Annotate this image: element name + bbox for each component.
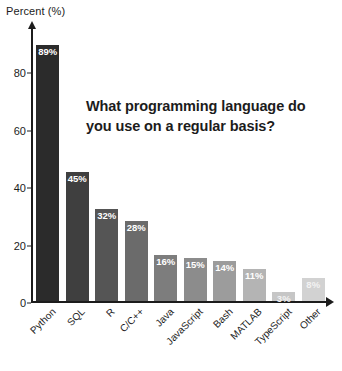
y-tick-label: 20 [14,240,26,251]
bar-value-label: 14% [213,263,236,273]
chart-headline: What programming language do you use on … [86,96,326,136]
y-tick-label: 80 [14,68,26,79]
bar-group: 45% [66,172,89,301]
bar[interactable]: 28% [125,221,148,301]
bar[interactable]: 15% [184,258,207,301]
x-axis-category-labels: PythonSQLRC/C++JavaJavaScriptBashMATLABT… [31,306,331,370]
bar-group: 11% [243,269,266,301]
y-tick-mark [27,73,31,74]
bar-group: 89% [36,45,59,301]
bar[interactable]: 11% [243,269,266,301]
bar[interactable]: 32% [95,209,118,301]
bar-value-label: 45% [66,174,89,184]
bar-value-label: 8% [302,280,325,290]
plot-area: 020406080 89%45%32%28%16%15%14%11%3%8% [31,28,331,303]
bar-value-label: 89% [36,47,59,57]
bar-group: 28% [125,221,148,301]
bar-value-label: 16% [154,257,177,267]
y-tick-mark [27,303,31,304]
bar[interactable]: 89% [36,45,59,301]
x-category-label: Other [298,306,323,331]
y-tick-label: 40 [14,183,26,194]
x-category-label: SQL [65,306,87,328]
x-category-label: Java [153,306,176,329]
y-tick-mark [27,245,31,246]
bar-value-label: 15% [184,260,207,270]
bar-value-label: 3% [272,294,295,304]
x-category-label: R [104,306,117,319]
y-tick-mark [27,188,31,189]
x-category-label: Bash [211,306,235,330]
bar[interactable]: 14% [213,261,236,301]
bar-chart: Percent (%) 020406080 89%45%32%28%16%15%… [0,0,342,371]
bar-value-label: 32% [95,211,118,221]
bar-group: 14% [213,261,236,301]
y-tick-label: 0 [20,298,26,309]
bar-group: 3% [272,292,295,301]
bar[interactable]: 45% [66,172,89,301]
x-category-label: C/C++ [118,306,146,334]
bar-group: 8% [302,278,325,301]
bar-group: 15% [184,258,207,301]
bar-value-label: 11% [243,271,266,281]
bar-value-label: 28% [125,223,148,233]
bar-group: 32% [95,209,118,301]
x-category-label: Python [28,306,58,336]
bar-series: 89%45%32%28%16%15%14%11%3%8% [33,28,328,301]
bar[interactable]: 16% [154,255,177,301]
y-axis-title: Percent (%) [6,5,65,18]
bar[interactable]: 8% [302,278,325,301]
y-tick-mark [27,130,31,131]
bar-group: 16% [154,255,177,301]
bar[interactable]: 3% [272,292,295,301]
y-tick-label: 60 [14,125,26,136]
